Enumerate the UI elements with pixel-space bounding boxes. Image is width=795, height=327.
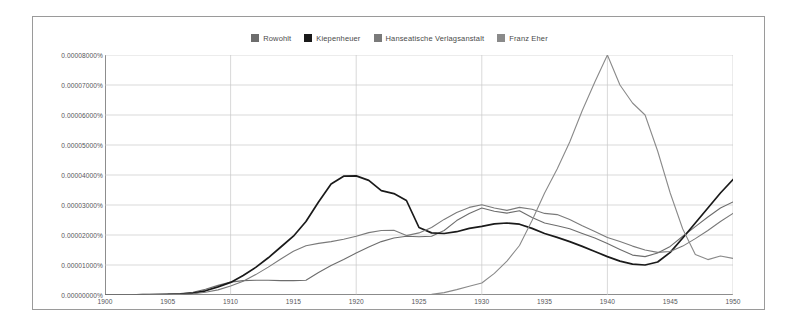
x-tick-label: 1900 — [97, 298, 112, 305]
y-tick-label: 0.00005000% — [61, 142, 103, 149]
legend-label: Rowohlt — [263, 34, 291, 43]
y-tick-label: 0.00006000% — [61, 112, 103, 119]
y-axis-tick-labels: 0.00000000%0.00001000%0.00002000%0.00003… — [29, 55, 103, 295]
x-tick-label: 1950 — [725, 298, 740, 305]
x-tick-label: 1905 — [160, 298, 175, 305]
x-tick-label: 1920 — [349, 298, 364, 305]
y-tick-label: 0.00003000% — [61, 202, 103, 209]
legend-item-franz-eher[interactable]: Franz Eher — [497, 34, 548, 43]
gridlines — [105, 55, 733, 295]
legend-swatch-icon — [251, 34, 259, 42]
y-tick-label: 0.00004000% — [61, 172, 103, 179]
legend-label: Kiepenheuer — [316, 34, 360, 43]
y-tick-label: 0.00008000% — [61, 52, 103, 59]
legend-item-kiepenheuer[interactable]: Kiepenheuer — [304, 34, 360, 43]
chart-frame: Rowohlt Kiepenheuer Hanseatische Verlags… — [32, 16, 765, 310]
legend-label: Franz Eher — [509, 34, 548, 43]
line-chart-canvas — [105, 55, 733, 295]
chart-legend: Rowohlt Kiepenheuer Hanseatische Verlags… — [33, 31, 766, 45]
legend-label: Hanseatische Verlagsanstalt — [386, 34, 485, 43]
y-tick-label: 0.00001000% — [61, 262, 103, 269]
x-axis-tick-labels: 1900190519101915192019251930193519401945… — [105, 298, 733, 310]
legend-swatch-icon — [497, 34, 505, 42]
legend-swatch-icon — [304, 34, 312, 42]
legend-item-hanseatische-verlagsanstalt[interactable]: Hanseatische Verlagsanstalt — [374, 34, 485, 43]
x-tick-label: 1935 — [537, 298, 552, 305]
x-tick-label: 1940 — [600, 298, 615, 305]
y-tick-label: 0.00002000% — [61, 232, 103, 239]
x-tick-label: 1910 — [223, 298, 238, 305]
x-tick-label: 1930 — [474, 298, 489, 305]
legend-swatch-icon — [374, 34, 382, 42]
y-tick-label: 0.00007000% — [61, 82, 103, 89]
series-line-kiepenheuer — [105, 176, 733, 295]
legend-item-rowohlt[interactable]: Rowohlt — [251, 34, 291, 43]
plot-area — [105, 55, 733, 295]
chart-screenshot: Rowohlt Kiepenheuer Hanseatische Verlags… — [0, 0, 795, 327]
x-tick-label: 1915 — [286, 298, 301, 305]
x-tick-label: 1925 — [411, 298, 426, 305]
series-line-hanseatische-verlagsanstalt — [105, 205, 733, 295]
x-tick-label: 1945 — [663, 298, 678, 305]
